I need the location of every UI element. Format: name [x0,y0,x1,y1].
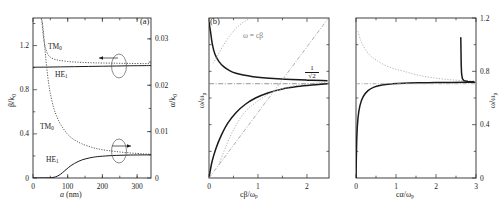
svg-text:2: 2 [305,182,309,191]
panel-c-ylabel: ω/ωp [488,78,497,124]
figure-root: 010020030000.40.81.200.010.020.03 (a) β/… [0,0,504,209]
svg-text:0.4: 0.4 [20,129,30,138]
panel-b-plot: 012 [196,0,346,209]
panel-a-xlabel: a (nm) [60,190,82,199]
ylabel-omega-sub: p [201,93,207,96]
panel-a-id: (a) [140,16,149,26]
svg-text:0.8: 0.8 [20,85,30,94]
svg-text:0.02: 0.02 [155,81,168,90]
svg-text:0.03: 0.03 [155,34,168,43]
svg-text:0: 0 [25,174,29,183]
tm0-upper-sub: 0 [59,45,62,51]
xlabel-a-unit: (nm) [66,190,82,199]
ylabel-alpha-sub: 0 [172,94,178,97]
curve-label-tm0-lower: TM0 [40,122,54,131]
asymptote-fraction-label: 1 √2 [305,65,319,80]
svg-text:2: 2 [434,182,438,191]
svg-text:0: 0 [480,174,484,183]
svg-text:300: 300 [131,182,143,191]
panel-a: 010020030000.40.81.200.010.020.03 (a) β/… [0,0,180,209]
ylabel-c-omega-sub: p [492,93,498,96]
ylabel-beta-sub: 0 [11,94,17,97]
xlabel-a-symbol: a [60,190,64,199]
svg-text:0.8: 0.8 [480,67,490,76]
tm0-lower-sub: 0 [51,125,54,131]
xlabel-calpha-sub: p [411,193,414,199]
xlabel-cbeta-text: cβ/ω [240,190,255,199]
svg-text:0: 0 [31,182,35,191]
asymptote-numerator: 1 [305,65,319,72]
panel-c-xlabel: cα/ωp [396,190,414,199]
panel-b-xlabel: cβ/ωp [240,190,258,199]
ylabel-beta-text: β/k [7,97,16,107]
panel-b: 012 (b) ω/ωp cβ/ωp ω = cβ 1 √2 [196,0,346,209]
tm0-upper-text: TM [48,42,59,51]
svg-text:200: 200 [97,182,109,191]
svg-text:3: 3 [474,182,478,191]
curve-label-he1-lower: HE1 [46,155,59,164]
panel-c-plot: 012300.40.81.2 [348,0,504,209]
panel-a-ylabel-right: α/k0 [168,81,177,121]
ylabel-c-omega-text: ω/ω [488,96,497,109]
svg-text:0: 0 [207,182,211,191]
panel-a-plot: 010020030000.40.81.200.010.020.03 [0,0,180,209]
panel-b-ylabel: ω/ωp [197,78,206,124]
svg-text:0: 0 [155,174,159,183]
panel-c: 012300.40.81.2 ω/ωp cα/ωp [348,0,504,209]
asymptote-denominator: √2 [305,72,319,80]
tm0-lower-text: TM [40,122,51,131]
curve-label-tm0-upper: TM0 [48,42,62,51]
he1-lower-sub: 1 [56,158,59,164]
svg-text:1.2: 1.2 [20,41,30,50]
curve-label-he1-upper: HE1 [55,70,68,79]
he1-lower-text: HE [46,155,56,164]
panel-b-id: (b) [210,16,220,26]
he1-upper-text: HE [55,70,65,79]
ylabel-alpha-text: α/k [168,97,177,107]
light-line-label: ω = cβ [243,31,263,40]
ylabel-omega-text: ω/ω [197,96,206,109]
svg-text:0: 0 [354,182,358,191]
xlabel-cbeta-sub: p [255,193,258,199]
he1-upper-sub: 1 [65,73,68,79]
svg-text:0.01: 0.01 [155,127,168,136]
xlabel-calpha-text: cα/ω [396,190,411,199]
svg-text:1.2: 1.2 [480,14,490,23]
panel-a-ylabel-left: β/k0 [7,81,16,121]
